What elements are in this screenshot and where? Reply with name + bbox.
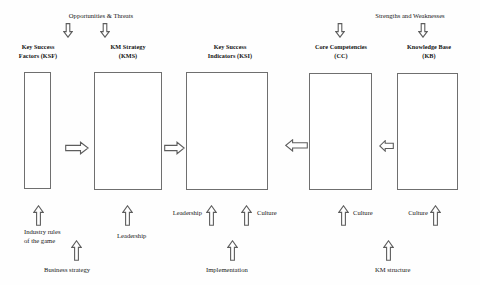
- arrow-down-icon-kb: [418, 23, 428, 38]
- label-industry-rules-line1: Industry rules: [24, 228, 94, 237]
- arrow-up-icon-implementation: [227, 240, 238, 261]
- label-leadership-kms: Leadership: [117, 232, 169, 241]
- arrow-left-icon-cc-to-ksi: [285, 139, 308, 152]
- label-business-strategy: Business strategy: [44, 266, 114, 275]
- box-header-ksi-line2: Indicators (KSI): [191, 52, 269, 61]
- arrow-up-icon-leadership-ksi: [206, 205, 217, 226]
- label-industry-rules: Industry rules of the game: [24, 228, 94, 245]
- box-header-kms: KM Strategy (KMS): [92, 43, 164, 60]
- diagram-canvas: Opportunities & Threats Strengths and We…: [0, 0, 480, 285]
- box-header-cc-line2: (CC): [300, 52, 382, 61]
- arrow-up-icon-leadership-kms: [122, 205, 133, 226]
- label-km-structure: KM structure: [375, 266, 435, 275]
- box-header-cc-line1: Core Competencies: [300, 43, 382, 52]
- label-culture-ksi: Culture: [257, 209, 297, 218]
- label-culture-kb: Culture: [392, 209, 428, 218]
- box-header-kb-line2: (KB): [390, 52, 468, 61]
- arrow-down-icon-kms: [100, 23, 110, 38]
- box-kb: [397, 73, 458, 190]
- label-leadership-ksi: Leadership: [160, 209, 202, 218]
- label-culture-cc: Culture: [353, 209, 393, 218]
- arrow-left-icon-kb-to-cc: [379, 140, 394, 152]
- box-kms: [94, 72, 162, 190]
- arrow-up-icon-km-structure: [383, 240, 394, 261]
- box-header-kb-line1: Knowledge Base: [390, 43, 468, 52]
- arrow-right-icon-ksf-to-kms: [65, 141, 89, 155]
- box-header-ksi: Key Success Indicators (KSI): [191, 43, 269, 60]
- arrow-down-icon-cc: [335, 23, 345, 38]
- box-ksf: [24, 72, 51, 189]
- arrow-up-icon-culture-ksi: [241, 205, 252, 226]
- box-header-kb: Knowledge Base (KB): [390, 43, 468, 60]
- top-label-opportunities-threats: Opportunities & Threats: [36, 12, 166, 21]
- arrow-up-icon-industry-rules: [33, 205, 44, 226]
- top-label-strengths-weaknesses: Strengths and Weaknesses: [345, 12, 475, 21]
- arrow-up-icon-culture-cc: [338, 205, 349, 226]
- box-header-ksf: Key Success Factors (KSF): [2, 43, 74, 60]
- box-header-ksf-line1: Key Success: [2, 43, 74, 52]
- box-header-kms-line2: (KMS): [92, 52, 164, 61]
- arrow-up-icon-culture-kb: [430, 205, 441, 226]
- arrow-down-icon-ksf: [63, 23, 73, 38]
- box-header-ksi-line1: Key Success: [191, 43, 269, 52]
- box-header-cc: Core Competencies (CC): [300, 43, 382, 60]
- arrow-right-icon-kms-to-ksi: [164, 141, 185, 155]
- box-header-ksf-line2: Factors (KSF): [2, 52, 74, 61]
- box-cc: [309, 73, 372, 190]
- box-ksi: [186, 72, 268, 190]
- box-header-kms-line1: KM Strategy: [92, 43, 164, 52]
- label-implementation: Implementation: [206, 266, 266, 275]
- label-industry-rules-line2: of the game: [24, 237, 94, 246]
